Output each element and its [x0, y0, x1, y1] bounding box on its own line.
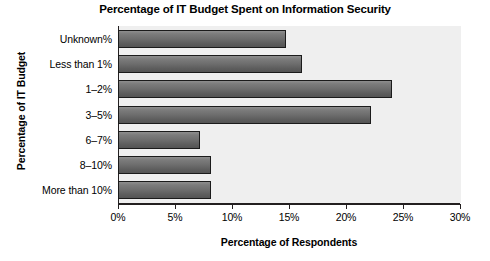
x-axis-tick [460, 204, 461, 209]
bar [118, 181, 211, 199]
x-axis-tick-label: 10% [212, 211, 252, 223]
bar-fill [118, 30, 286, 48]
bar-fill [118, 156, 211, 174]
y-axis-tick-label: More than 10% [0, 184, 112, 196]
x-axis-tick [346, 204, 347, 209]
x-axis-tick [232, 204, 233, 209]
x-axis-tick-label: 25% [383, 211, 423, 223]
bar-fill [118, 131, 200, 149]
x-axis-tick-label: 20% [326, 211, 366, 223]
x-axis-tick-label: 0% [98, 211, 138, 223]
bar [118, 106, 371, 124]
x-axis-tick-label: 30% [440, 211, 480, 223]
y-axis-tick-label: 3–5% [0, 109, 112, 121]
x-axis-tick-label: 15% [269, 211, 309, 223]
bar [118, 80, 392, 98]
y-axis-tick-label: Less than 1% [0, 58, 112, 70]
chart-container: Percentage of IT Budget Spent on Informa… [0, 0, 490, 261]
chart-title: Percentage of IT Budget Spent on Informa… [0, 3, 490, 15]
bar-fill [118, 55, 302, 73]
x-axis-tick [175, 204, 176, 209]
bar-fill [118, 181, 211, 199]
bar [118, 55, 302, 73]
bar [118, 131, 200, 149]
bar [118, 30, 286, 48]
y-axis-tick-label: Unknown% [0, 33, 112, 45]
x-axis-tick [403, 204, 404, 209]
bar [118, 156, 211, 174]
bar-fill [118, 106, 371, 124]
y-axis-tick-label: 6–7% [0, 134, 112, 146]
x-axis-tick [289, 204, 290, 209]
y-axis-tick-label: 8–10% [0, 159, 112, 171]
y-axis-tick-label: 1–2% [0, 83, 112, 95]
x-axis-tick-label: 5% [155, 211, 195, 223]
x-axis-tick [118, 204, 119, 209]
bar-fill [118, 80, 392, 98]
x-axis-title: Percentage of Respondents [118, 236, 460, 248]
